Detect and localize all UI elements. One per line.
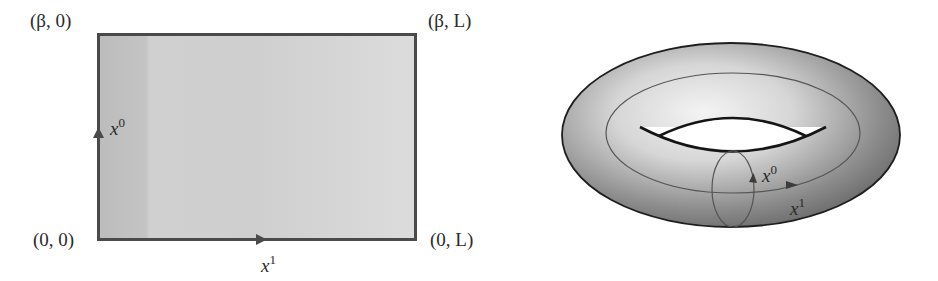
rectangle-panel: (β, 0) (β, L) (0, 0) (0, L) x0 x1 xyxy=(30,10,473,276)
corner-label-bottom-left: (0, 0) xyxy=(33,229,74,251)
corner-label-bottom-right: (0, L) xyxy=(430,229,473,251)
corner-label-top-left: (β, 0) xyxy=(30,10,71,32)
torus-diagram-figure: (β, 0) (β, L) (0, 0) (0, L) x0 x1 x0 x1 xyxy=(0,0,938,281)
torus-panel: x0 x1 xyxy=(562,43,900,227)
corner-label-top-right: (β, L) xyxy=(428,10,471,32)
fundamental-domain-rectangle xyxy=(99,35,416,240)
axis-label-x1: x1 xyxy=(260,252,276,276)
